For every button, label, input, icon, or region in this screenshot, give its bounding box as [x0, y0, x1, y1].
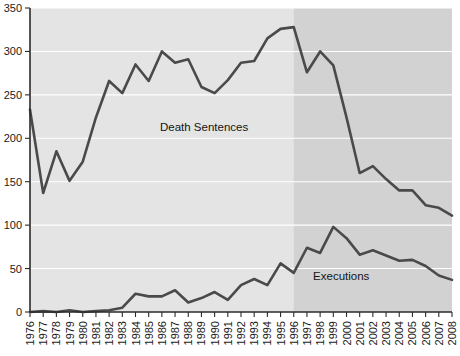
x-tick-label: 1984	[130, 321, 142, 345]
y-tick-label: 300	[4, 45, 22, 57]
x-tick-label: 1995	[275, 321, 287, 345]
x-tick-label: 1983	[116, 321, 128, 345]
x-tick-label: 1982	[103, 321, 115, 345]
x-tick-label: 2004	[393, 321, 405, 345]
x-tick-label: 1987	[169, 321, 181, 345]
x-tick-label: 1981	[90, 321, 102, 345]
x-tick-label: 1989	[195, 321, 207, 345]
x-tick-label: 1980	[77, 321, 89, 345]
x-tick-label: 1979	[64, 321, 76, 345]
x-tick-label: 1992	[235, 321, 247, 345]
y-tick-label: 250	[4, 89, 22, 101]
x-tick-label: 1999	[327, 321, 339, 345]
x-tick-label: 1993	[248, 321, 260, 345]
x-tick-label: 2006	[420, 321, 432, 345]
y-tick-label: 350	[4, 2, 22, 14]
death-sentences-label: Death Sentences	[160, 121, 248, 133]
x-tick-label: 1986	[156, 321, 168, 345]
x-tick-label: 1978	[50, 321, 62, 345]
y-tick-label: 0	[16, 306, 22, 318]
plot-background-group	[30, 8, 452, 312]
y-tick-label: 100	[4, 219, 22, 231]
y-tick-label: 200	[4, 132, 22, 144]
x-tick-label: 1998	[314, 321, 326, 345]
x-tick-label: 1997	[301, 321, 313, 345]
x-tick-label: 1985	[143, 321, 155, 345]
x-tick-label: 1976	[24, 321, 36, 345]
y-axis-tick-labels: 050100150200250300350	[4, 2, 22, 318]
x-tick-label: 2002	[367, 321, 379, 345]
executions-label: Executions	[313, 270, 370, 282]
x-tick-label: 2000	[341, 321, 353, 345]
x-tick-label: 2008	[446, 321, 458, 345]
x-tick-label: 2003	[380, 321, 392, 345]
x-axis-tick-labels: 1976197719781979198019811982198319841985…	[24, 321, 458, 345]
x-tick-label: 2007	[433, 321, 445, 345]
x-tick-label: 1994	[261, 321, 273, 345]
chart-container: 050100150200250300350 197619771978197919…	[0, 0, 460, 356]
line-chart: 050100150200250300350 197619771978197919…	[0, 0, 460, 356]
x-tick-label: 1988	[182, 321, 194, 345]
x-tick-label: 1990	[209, 321, 221, 345]
x-tick-label: 2005	[406, 321, 418, 345]
x-tick-label: 1996	[288, 321, 300, 345]
x-tick-label: 1991	[222, 321, 234, 345]
y-tick-label: 150	[4, 176, 22, 188]
x-tick-label: 1977	[37, 321, 49, 345]
x-tick-label: 2001	[354, 321, 366, 345]
y-tick-label: 50	[10, 263, 22, 275]
